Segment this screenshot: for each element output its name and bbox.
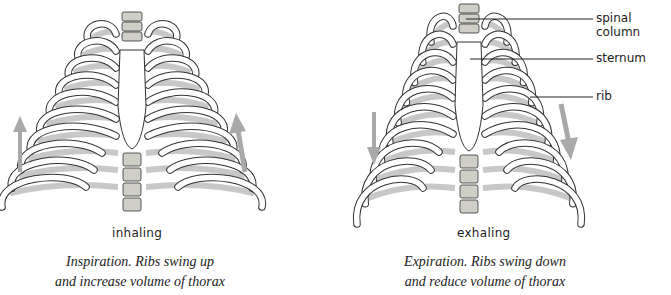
caption-line-2: and increase volume of thorax (40, 272, 240, 292)
vertebra (459, 24, 479, 33)
rib-back-band (146, 185, 254, 193)
caption-line-2: and reduce volume of thorax (385, 272, 585, 292)
callout-label-spinal-column: spinal column (596, 11, 671, 39)
vertebra (460, 185, 478, 198)
caption-line-1: Expiration. Ribs swing down (385, 252, 585, 272)
ribcage-inhaling-illustration (0, 0, 335, 295)
vertebra (122, 32, 142, 41)
sternum (455, 42, 483, 151)
vertebra (123, 168, 141, 181)
arrow-down-icon (560, 104, 578, 160)
ribcage-inhaling (2, 12, 263, 211)
callout-label-sternum: sternum (596, 51, 646, 65)
vertebra (460, 170, 478, 183)
state-label-inhaling: inhaling (112, 226, 162, 240)
ribcage-exhaling-illustration (335, 0, 671, 295)
callout-label-rib: rib (596, 89, 612, 103)
caption-inspiration: Inspiration. Ribs swing up and increase … (40, 252, 240, 292)
caption-expiration: Expiration. Ribs swing down and reduce v… (385, 252, 585, 292)
vertebra (460, 200, 478, 213)
caption-line-1: Inspiration. Ribs swing up (40, 252, 240, 272)
vertebra (123, 183, 141, 196)
vertebra (122, 12, 142, 21)
rib-back-band (146, 168, 245, 176)
rib-back-band (19, 168, 118, 176)
exhalation-panel: spinal column sternum rib exhaling Expir… (335, 0, 671, 295)
vertebra (123, 153, 141, 166)
inhalation-panel: inhaling Inspiration. Ribs swing up and … (0, 0, 335, 295)
vertebra (459, 4, 479, 13)
vertebra (123, 198, 141, 211)
vertebra (460, 155, 478, 168)
state-label-exhaling: exhaling (457, 226, 511, 240)
rib-back-band (10, 185, 118, 193)
vertebra (122, 22, 142, 31)
ribcage-exhaling (357, 4, 582, 224)
sternum (118, 50, 146, 149)
